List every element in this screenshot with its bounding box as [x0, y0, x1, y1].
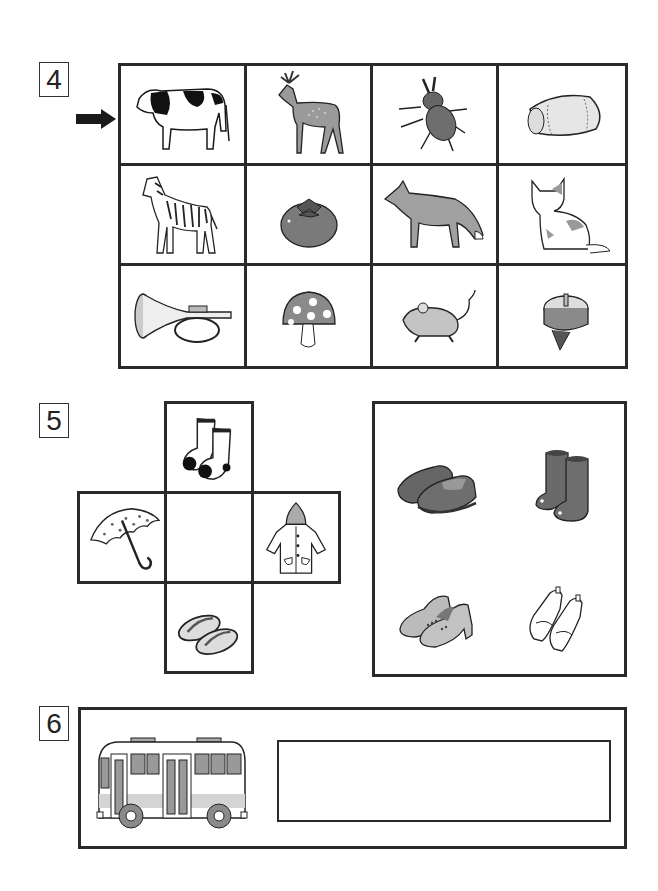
deer-icon [253, 69, 365, 161]
socks-icon [170, 409, 248, 487]
cross-cell-left-umbrella[interactable]: umbrella [77, 491, 167, 584]
grid-cell-cat[interactable]: cat [499, 166, 625, 266]
grid-cell-mushroom[interactable]: mushroom [247, 266, 373, 366]
cross-cell-right-raincoat[interactable]: raincoat [251, 491, 341, 584]
cross-cell-bottom-sandals[interactable]: sandals (zori) [164, 581, 254, 674]
choice-rain-boots[interactable]: rain boots [505, 434, 615, 544]
grid-cell-stag-beetle[interactable]: stag beetle [373, 66, 499, 166]
high-heel-shoes-icon [392, 579, 488, 659]
grid-cell-persimmon[interactable]: persimmon [247, 166, 373, 266]
fox-icon [379, 169, 491, 261]
mushroom-icon [253, 270, 365, 362]
shoe-choices-box: loafers rain boots high-heel shoes indoo… [372, 401, 627, 677]
cross-cell-top-socks[interactable]: socks [164, 401, 254, 494]
loafers-icon [392, 449, 488, 529]
spinning-top-icon [506, 270, 618, 362]
mouse-icon [379, 270, 491, 362]
persimmon-icon [253, 169, 365, 261]
grid-cell-trumpet[interactable]: trumpet [121, 266, 247, 366]
grid-cell-spinning-top[interactable]: spinning top [499, 266, 625, 366]
choice-loafers[interactable]: loafers [385, 434, 495, 544]
grid-cell-zebra[interactable]: zebra [121, 166, 247, 266]
sandals-icon [170, 589, 248, 667]
grid-cell-fox[interactable]: fox [373, 166, 499, 266]
trumpet-icon [127, 270, 239, 362]
choice-indoor-shoes[interactable]: indoor shoes [505, 564, 615, 674]
indoor-shoes-icon [512, 579, 608, 659]
question-number-6: 6 [39, 706, 69, 741]
raincoat-icon [257, 499, 335, 577]
arrow-right-icon [76, 109, 116, 129]
grid-cell-deer[interactable]: deer [247, 66, 373, 166]
stag-beetle-icon [379, 69, 491, 161]
umbrella-icon [83, 499, 161, 577]
choice-high-heel-shoes[interactable]: high-heel shoes [385, 564, 495, 674]
rain-boots-icon [512, 449, 608, 529]
zebra-icon [127, 169, 239, 261]
cow-icon [127, 69, 239, 161]
grid-cell-cow[interactable]: cow [121, 66, 247, 166]
question-6-box: bus [78, 707, 627, 849]
bus-picture: bus [91, 734, 251, 830]
answer-box[interactable] [277, 740, 611, 822]
question-number-5: 5 [39, 403, 69, 438]
cat-icon [506, 169, 618, 261]
grid-cell-mouse[interactable]: mouse [373, 266, 499, 366]
drum-icon [506, 69, 618, 161]
cross-cell-center-empty[interactable] [164, 491, 254, 584]
grid-cell-drum[interactable]: drum [499, 66, 625, 166]
bus-icon [91, 734, 251, 830]
picture-grid: cow deer stag beetle drum [118, 63, 628, 369]
question-number-4: 4 [39, 62, 69, 97]
